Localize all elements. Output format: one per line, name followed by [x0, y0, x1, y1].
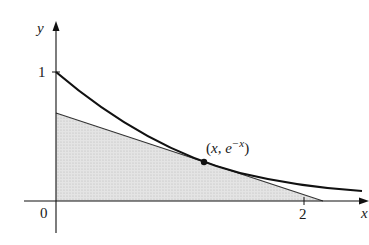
- point-label-exponent: −x: [232, 137, 244, 149]
- tangent-point: [201, 159, 207, 165]
- origin-label: 0: [40, 205, 48, 221]
- point-label-comma: , e: [218, 140, 233, 156]
- diagram-canvas: y x 0 1 2 (x, e−x): [0, 0, 369, 245]
- x-axis-arrow-icon: [359, 198, 369, 205]
- x-tick-label: 2: [299, 206, 307, 222]
- point-label-close: ): [244, 140, 249, 157]
- point-label: (x, e−x): [206, 137, 249, 157]
- x-axis-label: x: [360, 205, 368, 221]
- y-axis-arrow-icon: [53, 21, 60, 31]
- y-axis-label: y: [35, 20, 44, 36]
- y-tick-label: 1: [38, 64, 46, 80]
